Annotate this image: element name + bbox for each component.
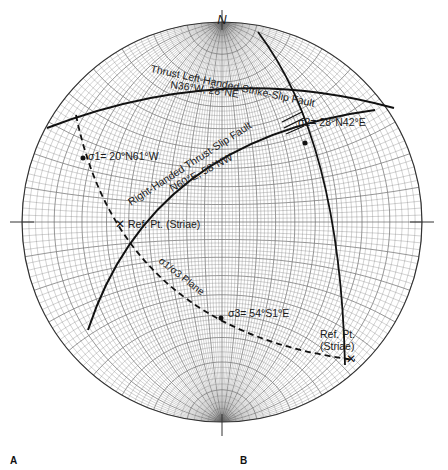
ref-point-right-marker: ✕ xyxy=(346,352,356,366)
sigma1-label: σ1= 20°N61°W xyxy=(88,150,159,162)
stereonet-diagram: N ✕ ✕ Thrust Left-Handed Strike-Slip Fau… xyxy=(0,0,448,470)
panel-label-b: B xyxy=(240,455,247,466)
panel-label-a: A xyxy=(10,455,17,466)
sigma3-point xyxy=(219,316,224,321)
sigma2-point xyxy=(303,141,308,146)
sigma1-point xyxy=(81,156,86,161)
ref-point-right-label-1: Ref. Pt. xyxy=(320,328,355,340)
ref-point-left-label: Ref. Pt. (Striae) xyxy=(128,218,200,230)
ref-point-left-marker: ✕ xyxy=(115,217,125,231)
north-label: N xyxy=(217,12,227,27)
sigma2-label: σ2= 28°N42°E xyxy=(298,116,366,128)
ref-point-right-label-2: (Striae) xyxy=(320,340,354,352)
sigma3-label: σ3= 54°S1°E xyxy=(228,307,289,319)
